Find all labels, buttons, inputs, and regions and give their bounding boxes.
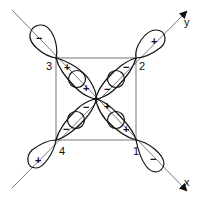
corner-2-inner-lobe: − −	[96, 58, 136, 99]
svg-text:−: −	[123, 61, 129, 73]
svg-text:+: +	[151, 35, 157, 47]
corner-3-inner-lobe: + +	[56, 58, 96, 99]
orbital-diagram: − + + − + + − − − − + +	[0, 0, 202, 203]
svg-text:−: −	[104, 83, 110, 95]
corner-label-2: 2	[139, 60, 145, 72]
svg-text:+: +	[64, 61, 70, 73]
corner-3-outer-lobe: −	[30, 25, 57, 58]
svg-text:−: −	[150, 153, 156, 165]
svg-text:−: −	[83, 101, 89, 113]
x-axis-label: x	[184, 176, 190, 188]
corner-4-inner-lobe: − −	[56, 99, 96, 140]
corner-4-outer-lobe: +	[28, 140, 56, 168]
corner-1-inner-lobe: + +	[96, 99, 136, 140]
svg-text:+: +	[83, 82, 89, 94]
svg-text:+: +	[35, 154, 41, 166]
corner-1-outer-lobe: −	[136, 140, 164, 172]
corner-label-3: 3	[46, 60, 52, 72]
svg-text:−: −	[36, 32, 42, 44]
svg-text:+: +	[104, 100, 110, 112]
y-axis-label: y	[184, 16, 190, 28]
svg-text:−: −	[63, 123, 69, 135]
corner-2-outer-lobe: +	[136, 30, 165, 58]
corner-label-4: 4	[59, 145, 65, 157]
corner-label-1: 1	[133, 145, 139, 157]
svg-text:+: +	[123, 123, 129, 135]
center-point	[94, 97, 98, 101]
